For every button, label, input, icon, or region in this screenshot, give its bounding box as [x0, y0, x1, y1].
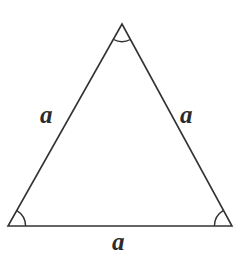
side-label-right: a — [180, 102, 193, 127]
canvas-background — [0, 0, 242, 255]
side-label-left: a — [40, 102, 53, 127]
triangle-figure: a a a — [0, 0, 242, 255]
side-label-base: a — [112, 229, 125, 254]
triangle-drawing — [0, 0, 242, 255]
